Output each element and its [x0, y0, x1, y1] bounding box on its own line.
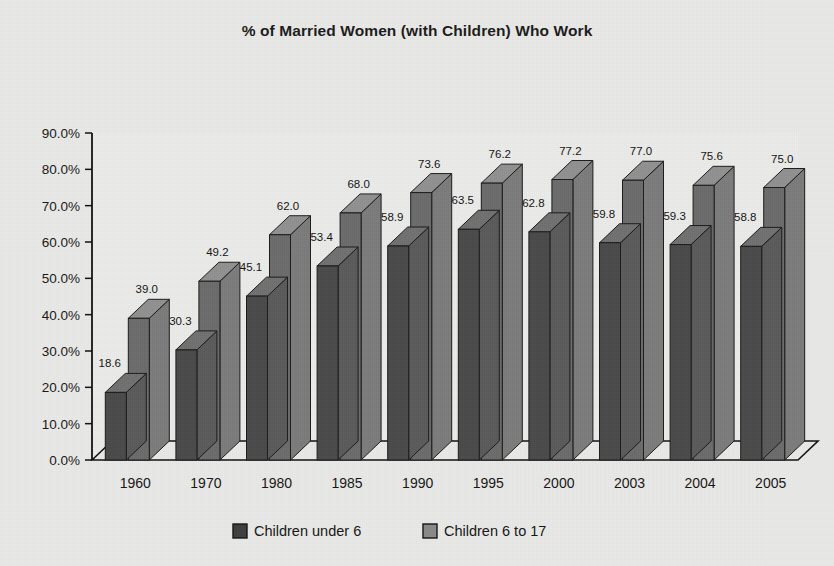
bar-side-face: [644, 161, 664, 460]
bar-value-label: 63.5: [452, 194, 474, 206]
bar-value-label: 39.0: [136, 283, 158, 295]
x-tick-label: 1995: [473, 475, 504, 491]
bar-front-face[interactable]: [317, 266, 338, 460]
bar-value-label: 18.6: [99, 357, 121, 369]
bar-side-face: [361, 194, 381, 460]
y-tick-label: 10.0%: [42, 417, 80, 432]
bar-chart-plot: 0.0%10.0%20.0%30.0%40.0%50.0%60.0%70.0%8…: [0, 0, 834, 566]
x-tick-label: 2004: [685, 475, 716, 491]
bar-side-face: [197, 331, 217, 460]
y-tick-label: 0.0%: [49, 453, 80, 468]
legend-label: Children 6 to 17: [444, 523, 546, 539]
bar-side-face: [149, 299, 169, 460]
bar-value-label: 59.8: [593, 208, 615, 220]
x-tick-label: 2005: [755, 475, 786, 491]
bar-front-face[interactable]: [247, 296, 268, 460]
bar-value-label: 62.8: [522, 197, 544, 209]
x-tick-label: 1990: [402, 475, 433, 491]
bar-value-label: 30.3: [169, 315, 191, 327]
bar-front-face[interactable]: [670, 245, 691, 460]
x-tick-label: 2003: [614, 475, 645, 491]
legend-swatch: [423, 524, 437, 538]
bar-side-face: [691, 226, 711, 460]
x-tick-label: 1985: [332, 475, 363, 491]
y-tick-label: 30.0%: [42, 344, 80, 359]
x-axis-labels: 1960197019801985199019952000200320042005: [120, 475, 787, 491]
bar-side-face: [762, 227, 782, 460]
bar-side-face: [785, 169, 805, 461]
bar-side-face: [550, 213, 570, 460]
bar-value-label: 49.2: [206, 246, 228, 258]
x-tick-label: 2000: [543, 475, 574, 491]
bar-value-label: 77.2: [559, 145, 581, 157]
legend-label: Children under 6: [254, 523, 361, 539]
chart-legend: Children under 6Children 6 to 17: [233, 523, 546, 539]
bar-value-label: 53.4: [310, 231, 333, 243]
bar-side-face: [338, 247, 358, 460]
y-tick-label: 60.0%: [42, 235, 80, 250]
bar-value-label: 59.3: [663, 210, 685, 222]
legend-swatch: [233, 524, 247, 538]
bar-side-face: [479, 210, 499, 460]
bar-side-face: [432, 174, 452, 460]
bar-value-label: 76.2: [489, 148, 511, 160]
bar-side-face: [220, 262, 240, 460]
bar-value-label: 58.8: [734, 211, 756, 223]
bar-value-label: 68.0: [347, 178, 369, 190]
bar-value-label: 62.0: [277, 200, 299, 212]
y-tick-label: 80.0%: [42, 162, 80, 177]
y-tick-label: 70.0%: [42, 199, 80, 214]
y-axis-ticks: 0.0%10.0%20.0%30.0%40.0%50.0%60.0%70.0%8…: [42, 126, 92, 468]
bar-value-label: 58.9: [381, 211, 403, 223]
bar-value-label: 75.6: [700, 150, 722, 162]
x-tick-label: 1970: [190, 475, 221, 491]
bar-front-face[interactable]: [600, 243, 621, 460]
bar-side-face: [621, 224, 641, 460]
bar-front-face[interactable]: [458, 229, 479, 460]
bar-side-face: [409, 227, 429, 460]
bar-front-face[interactable]: [176, 350, 197, 460]
y-tick-label: 20.0%: [42, 380, 80, 395]
bar-side-face: [268, 277, 288, 460]
bar-value-label: 75.0: [771, 153, 793, 165]
y-tick-label: 40.0%: [42, 308, 80, 323]
bar-side-face: [573, 161, 593, 460]
y-tick-label: 50.0%: [42, 271, 80, 286]
bar-side-face: [502, 164, 522, 460]
bar-side-face: [291, 216, 311, 460]
x-tick-label: 1960: [120, 475, 151, 491]
bar-value-label: 77.0: [630, 145, 652, 157]
x-tick-label: 1980: [261, 475, 292, 491]
bar-value-label: 73.6: [418, 158, 440, 170]
bar-side-face: [714, 166, 734, 460]
bar-value-label: 45.1: [240, 261, 262, 273]
bar-front-face[interactable]: [105, 392, 126, 460]
bar-front-face[interactable]: [741, 246, 762, 460]
y-tick-label: 90.0%: [42, 126, 80, 141]
bar-front-face[interactable]: [529, 232, 550, 460]
bar-front-face[interactable]: [388, 246, 409, 460]
chart-container: % of Married Women (with Children) Who W…: [0, 0, 834, 566]
